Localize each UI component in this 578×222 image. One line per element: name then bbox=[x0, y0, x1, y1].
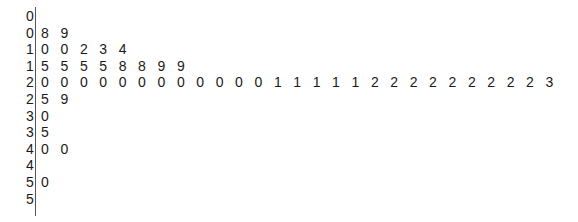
leaf-value: 1 bbox=[330, 74, 342, 90]
stem-value: 2 bbox=[26, 91, 36, 107]
stem-value: 5 bbox=[26, 191, 36, 207]
stem-value: 0 bbox=[26, 8, 36, 24]
leaf-value: 0 bbox=[58, 74, 70, 90]
stem-value: 4 bbox=[26, 157, 36, 173]
leaf-value: 0 bbox=[39, 74, 51, 90]
leaf-value: 5 bbox=[39, 91, 51, 107]
leaf-value: 0 bbox=[136, 74, 148, 90]
leaf-value: 5 bbox=[39, 58, 51, 74]
leaf-value: 1 bbox=[272, 74, 284, 90]
leaf-value: 9 bbox=[155, 58, 167, 74]
leaf-value: 1 bbox=[311, 74, 323, 90]
stem-value: 0 bbox=[26, 25, 36, 41]
leaf-value: 1 bbox=[291, 74, 303, 90]
leaf-value: 3 bbox=[543, 74, 555, 90]
leaf-value: 8 bbox=[117, 58, 129, 74]
leaf-value: 0 bbox=[58, 141, 70, 157]
leaf-value: 0 bbox=[97, 74, 109, 90]
leaf-value: 0 bbox=[175, 74, 187, 90]
leaf-value: 0 bbox=[39, 108, 51, 124]
leaf-value: 3 bbox=[97, 41, 109, 57]
leaf-value: 9 bbox=[58, 25, 70, 41]
leaf-value: 5 bbox=[78, 58, 90, 74]
stem-value: 3 bbox=[26, 124, 36, 140]
leaf-value: 0 bbox=[78, 74, 90, 90]
leaf-value: 5 bbox=[58, 58, 70, 74]
leaf-value: 0 bbox=[233, 74, 245, 90]
stem-value: 1 bbox=[26, 41, 36, 57]
leaf-value: 4 bbox=[117, 41, 129, 57]
stem-and-leaf-plot: 0089100234155558899200000000000011111222… bbox=[0, 0, 578, 222]
leaf-value: 1 bbox=[349, 74, 361, 90]
stem-value: 4 bbox=[26, 141, 36, 157]
leaf-value: 2 bbox=[505, 74, 517, 90]
leaf-value: 0 bbox=[39, 41, 51, 57]
leaf-value: 5 bbox=[39, 124, 51, 140]
stem-value: 2 bbox=[26, 74, 36, 90]
leaf-value: 2 bbox=[427, 74, 439, 90]
leaf-value: 8 bbox=[39, 25, 51, 41]
leaf-value: 2 bbox=[446, 74, 458, 90]
leaf-value: 8 bbox=[136, 58, 148, 74]
stem-value: 1 bbox=[26, 58, 36, 74]
leaf-value: 0 bbox=[214, 74, 226, 90]
leaf-value: 0 bbox=[39, 141, 51, 157]
leaf-value: 2 bbox=[524, 74, 536, 90]
leaf-value: 0 bbox=[117, 74, 129, 90]
leaf-value: 2 bbox=[466, 74, 478, 90]
leaf-value: 0 bbox=[58, 41, 70, 57]
leaf-value: 0 bbox=[194, 74, 206, 90]
stem-value: 3 bbox=[26, 108, 36, 124]
leaf-value: 9 bbox=[175, 58, 187, 74]
leaf-value: 2 bbox=[388, 74, 400, 90]
leaf-value: 2 bbox=[78, 41, 90, 57]
leaf-value: 0 bbox=[155, 74, 167, 90]
leaf-value: 9 bbox=[58, 91, 70, 107]
leaf-value: 2 bbox=[369, 74, 381, 90]
leaf-value: 0 bbox=[252, 74, 264, 90]
leaf-value: 0 bbox=[39, 174, 51, 190]
leaf-value: 5 bbox=[97, 58, 109, 74]
stem-value: 5 bbox=[26, 174, 36, 190]
leaf-value: 2 bbox=[408, 74, 420, 90]
leaf-value: 2 bbox=[485, 74, 497, 90]
